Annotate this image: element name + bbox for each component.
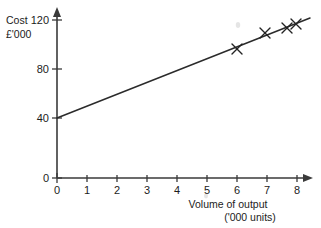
chart-canvas: 120 80 40 0 Cost £'000 0 1 2 3: [0, 0, 321, 228]
x-axis-title-line1: Volume of output: [189, 198, 268, 210]
y-axis-title-line2: £'000: [6, 28, 32, 40]
y-axis-arrowhead: [53, 7, 61, 17]
x-tick-label-6: 6: [234, 184, 240, 196]
x-tick-label-3: 3: [144, 184, 150, 196]
y-tick-label-120: 120: [31, 14, 49, 26]
x-axis: 0 1 2 3 4 5 6 7 8: [54, 173, 313, 196]
y-tick-label-80: 80: [37, 63, 49, 75]
y-tick-label-40: 40: [37, 112, 49, 124]
y-axis-title-line1: Cost: [6, 14, 28, 26]
x-tick-label-2: 2: [114, 184, 120, 196]
x-axis-title: Volume of output ('000 units): [189, 198, 276, 223]
x-axis-arrowhead: [303, 174, 313, 182]
x-tick-label-7: 7: [264, 184, 270, 196]
x-tick-label-0: 0: [54, 184, 60, 196]
x-tick-label-5: 5: [204, 184, 210, 196]
line-of-best-fit: [57, 18, 310, 118]
cost-volume-chart: 120 80 40 0 Cost £'000 0 1 2 3: [0, 0, 321, 228]
y-axis-title: Cost £'000: [6, 14, 32, 40]
x-tick-label-1: 1: [84, 184, 90, 196]
y-tick-label-0: 0: [43, 172, 49, 184]
x-tick-label-4: 4: [174, 184, 180, 196]
x-tick-label-8: 8: [294, 184, 300, 196]
scan-artifact: [236, 22, 240, 28]
data-point-marker: [291, 19, 301, 29]
x-axis-title-line2: ('000 units): [224, 211, 276, 223]
y-axis: 120 80 40 0: [31, 7, 62, 184]
